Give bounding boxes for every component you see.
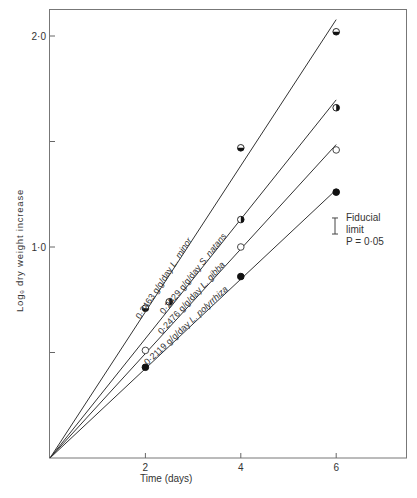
- y-tick-label: 2·0: [32, 31, 47, 42]
- x-tick-label: 4: [238, 462, 244, 473]
- data-point-marker: [333, 189, 340, 196]
- y-axis-ticks: 1·02·0: [32, 31, 55, 353]
- x-axis-label: Time (days): [140, 473, 192, 484]
- fiducial-label-line2: limit: [346, 224, 364, 235]
- x-tick-label: 2: [143, 462, 149, 473]
- regression-lines: [50, 20, 336, 458]
- y-axis-label: Logₑ dry weight increase: [14, 189, 25, 312]
- regression-line: [50, 20, 336, 458]
- growth-chart: 246 1·02·0 0·3463 g/g/day L. minor0·2829…: [0, 0, 417, 498]
- y-tick-label: 1·0: [32, 242, 47, 253]
- data-point-marker: [238, 244, 245, 251]
- data-point-marker: [333, 104, 340, 111]
- data-point-marker: [333, 147, 340, 154]
- data-point-marker: [238, 216, 245, 223]
- data-point-marker: [238, 145, 245, 152]
- data-point-marker: [142, 347, 149, 354]
- line-labels: 0·3463 g/g/day L. minor0·2829 g/g/day S.…: [134, 231, 230, 367]
- fiducial-label-line1: Fiducial: [346, 212, 380, 223]
- x-axis-ticks: 246: [143, 453, 340, 473]
- fiducial-limit-legend: Fiducial limit P = 0·05: [332, 212, 384, 247]
- data-point-marker: [238, 273, 245, 280]
- fiducial-label-line3: P = 0·05: [346, 236, 384, 247]
- x-tick-label: 6: [333, 462, 339, 473]
- data-point-marker: [333, 28, 340, 35]
